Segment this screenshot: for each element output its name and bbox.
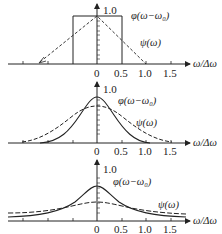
phi-label: φ(ω−ω₀) (113, 176, 152, 188)
psi-label: ψ(ω) (136, 117, 157, 129)
psi-triangle-curve (40, 16, 146, 64)
x-axis-label: ω/Δω (193, 215, 217, 226)
tick-1.0: 1.0 (138, 67, 152, 79)
tick-0.5: 0.5 (114, 145, 128, 157)
tick-0: 0 (94, 67, 100, 79)
panel-1: 1.0 φ(ω−ω₀) ψ(ω) 0 0.5 1.0 1.5 ω/Δω (8, 4, 217, 79)
psi-label: ψ(ω) (158, 199, 179, 211)
tick-0: 0 (94, 223, 100, 234)
x-axis-label: ω/Δω (193, 137, 217, 148)
panel-2: 1.0 φ(ω−ω₀) ψ(ω) 0 0.5 1.0 1.5 ω/Δω (8, 82, 217, 157)
phi-label: φ(ω−ω₀) (131, 10, 170, 22)
tick-0: 0 (94, 145, 100, 157)
y-max-label: 1.0 (103, 4, 117, 16)
spectral-line-shapes-diagram: 1.0 φ(ω−ω₀) ψ(ω) 0 0.5 1.0 1.5 ω/Δω 1.0 … (0, 0, 222, 234)
psi-label: ψ(ω) (140, 37, 161, 49)
x-axis-label: ω/Δω (193, 58, 217, 69)
tick-1.5: 1.5 (163, 145, 177, 157)
tick-0.5: 0.5 (114, 223, 128, 234)
tick-1.5: 1.5 (163, 223, 177, 234)
tick-1.0: 1.0 (138, 145, 152, 157)
y-max-label: 1.0 (103, 83, 117, 95)
tick-1.0: 1.0 (138, 223, 152, 234)
y-max-label: 1.0 (103, 163, 117, 175)
tick-0.5: 0.5 (114, 67, 128, 79)
panel-3: 1.0 φ(ω−ω₀) ψ(ω) 0 0.5 1.0 1.5 ω/Δω (8, 160, 217, 234)
tick-1.5: 1.5 (163, 67, 177, 79)
phi-label: φ(ω−ω₀) (118, 95, 157, 107)
